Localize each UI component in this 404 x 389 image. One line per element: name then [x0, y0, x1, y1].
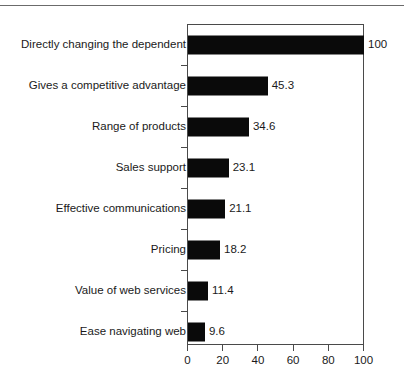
y-axis-tick [181, 311, 187, 312]
bar-track: 21.1 [188, 199, 364, 218]
y-axis-tick [181, 106, 187, 107]
category-label: Range of products [92, 121, 186, 133]
bar-value-label: 9.6 [209, 326, 225, 338]
bar [188, 117, 249, 136]
category-label: Pricing [151, 244, 186, 256]
y-axis-tick [181, 229, 187, 230]
bar [188, 199, 225, 218]
bar-value-label: 21.1 [229, 203, 251, 215]
x-axis-tick [222, 345, 223, 351]
bar-value-label: 23.1 [233, 162, 255, 174]
bar-track: 9.6 [188, 322, 364, 341]
bar [188, 76, 268, 95]
bar-value-label: 34.6 [253, 121, 275, 133]
bar-row: Gives a competitive advantage45.3 [0, 65, 404, 106]
x-axis-tick-label: 0 [184, 355, 190, 367]
bar [188, 158, 229, 177]
bar-row: Ease navigating web9.6 [0, 311, 404, 352]
x-axis-tick-label: 20 [216, 355, 229, 367]
bar-value-label: 11.4 [212, 285, 234, 297]
bar-value-label: 45.3 [272, 80, 294, 92]
bar-row: Pricing18.2 [0, 229, 404, 270]
bar-row: Value of web services11.4 [0, 270, 404, 311]
bar [188, 35, 364, 54]
x-axis-tick [363, 345, 364, 351]
category-label: Directly changing the dependent [21, 39, 186, 51]
category-label: Value of web services [75, 285, 186, 297]
bar-track: 18.2 [188, 240, 364, 259]
category-label: Gives a competitive advantage [29, 80, 186, 92]
x-axis-tick-label: 40 [251, 355, 264, 367]
bar-row: Sales support23.1 [0, 147, 404, 188]
x-axis-tick [187, 345, 188, 351]
y-axis-tick [181, 65, 187, 66]
bar-track: 45.3 [188, 76, 364, 95]
category-label: Sales support [116, 162, 186, 174]
x-axis-tick-label: 80 [322, 355, 335, 367]
y-axis-tick [181, 270, 187, 271]
y-axis-tick [181, 188, 187, 189]
top-divider-rule [0, 5, 404, 6]
bar [188, 240, 220, 259]
x-axis-tick-label: 100 [354, 355, 373, 367]
bar-value-label: 100 [368, 39, 387, 51]
bar-chart-figure: Directly changing the dependent100Gives … [0, 0, 404, 389]
x-axis-tick [293, 345, 294, 351]
bar-track: 11.4 [188, 281, 364, 300]
bar-track: 23.1 [188, 158, 364, 177]
category-label: Effective communications [56, 203, 186, 215]
x-axis-tick-label: 60 [287, 355, 300, 367]
bar-row: Effective communications21.1 [0, 188, 404, 229]
bar [188, 281, 208, 300]
bar-row: Range of products34.6 [0, 106, 404, 147]
x-axis-tick [257, 345, 258, 351]
x-axis-tick [328, 345, 329, 351]
y-axis-tick [181, 147, 187, 148]
bar-track: 100 [188, 35, 364, 54]
category-label: Ease navigating web [80, 326, 186, 338]
bar-row: Directly changing the dependent100 [0, 24, 404, 65]
bar-value-label: 18.2 [224, 244, 246, 256]
bar [188, 322, 205, 341]
bar-track: 34.6 [188, 117, 364, 136]
